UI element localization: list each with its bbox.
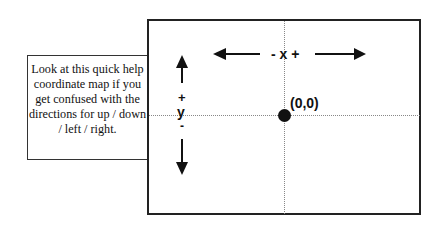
arrow-down-icon bbox=[176, 139, 188, 175]
x-axis-label: - x + bbox=[271, 46, 299, 62]
arrow-left-icon bbox=[213, 48, 260, 60]
y-minus-label: - bbox=[180, 119, 184, 133]
y-plus-label: + bbox=[178, 90, 186, 105]
direction-arrows bbox=[0, 0, 448, 228]
arrow-up-icon bbox=[176, 55, 188, 83]
arrow-right-icon bbox=[315, 48, 366, 60]
y-axis-label: y bbox=[177, 104, 185, 120]
origin-label: (0,0) bbox=[290, 95, 319, 111]
